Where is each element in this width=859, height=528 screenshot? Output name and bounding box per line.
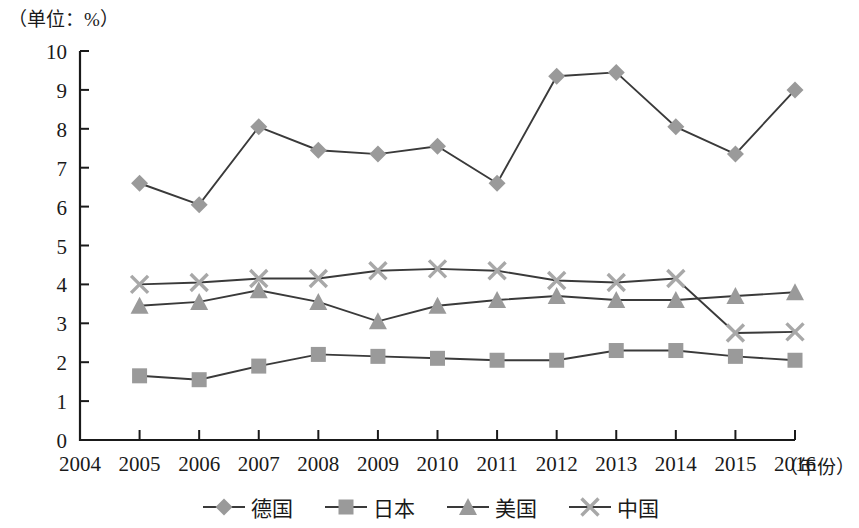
- legend-label: 德国: [249, 492, 293, 522]
- chart-legend: 德国日本美国中国: [0, 492, 859, 522]
- legend-item-4[interactable]: 中国: [567, 492, 659, 522]
- legend-item-2[interactable]: 日本: [323, 492, 415, 522]
- y-axis-tick-label: 4: [57, 273, 68, 297]
- legend-label: 中国: [615, 492, 659, 522]
- legend-label: 日本: [371, 492, 415, 522]
- x-axis-tick-label: 2009: [357, 452, 399, 476]
- x-axis-tick-label: 2008: [297, 452, 339, 476]
- series-line: [140, 269, 795, 333]
- y-axis-tick-label: 10: [46, 40, 67, 64]
- x-axis-tick-label: 2005: [119, 452, 161, 476]
- series-line: [140, 290, 795, 321]
- data-point-marker: [430, 351, 445, 366]
- series-line: [140, 351, 795, 380]
- x-axis-tick-label: 2012: [536, 452, 578, 476]
- data-point-marker: [251, 359, 266, 374]
- y-axis-tick-label: 2: [57, 351, 68, 375]
- x-axis-tick-label: 2014: [655, 452, 698, 476]
- diamond-marker: [201, 497, 247, 517]
- data-point-marker: [192, 372, 207, 387]
- chart-figure: （单位：%） 012345678910200420052006200720082…: [0, 0, 859, 528]
- chart-series-2-markers: [132, 343, 802, 387]
- x-axis-tick-label: 2013: [595, 452, 637, 476]
- chart-series-4: [140, 269, 795, 333]
- data-point-marker: [310, 142, 327, 159]
- legend-label: 美国: [493, 492, 537, 522]
- y-axis-tick-label: 6: [57, 196, 68, 220]
- chart-series-4-markers: [131, 260, 803, 341]
- data-point-marker: [311, 347, 326, 362]
- plot-area: 0123456789102004200520062007200820092010…: [0, 0, 859, 528]
- legend-item-3[interactable]: 美国: [445, 492, 537, 522]
- chart-series-3-markers: [131, 281, 804, 329]
- data-point-marker: [549, 353, 564, 368]
- square-marker: [323, 497, 369, 517]
- series-line: [140, 72, 795, 204]
- data-point-marker: [370, 349, 385, 364]
- data-point-marker: [489, 175, 506, 192]
- legend-item-1[interactable]: 德国: [201, 492, 293, 522]
- chart-series-3: [140, 290, 795, 321]
- y-axis-tick-label: 9: [57, 79, 68, 103]
- data-point-marker: [132, 368, 147, 383]
- chart-axes: [80, 51, 795, 440]
- data-point-marker: [369, 312, 387, 329]
- data-point-marker: [369, 146, 386, 163]
- data-point-marker: [191, 196, 208, 213]
- x-axis-title: （年份）: [779, 452, 855, 479]
- data-point-marker: [250, 118, 267, 135]
- data-point-marker: [788, 353, 803, 368]
- x-axis-tick-label: 2015: [714, 452, 756, 476]
- x-axis-tick-label: 2007: [238, 452, 280, 476]
- x-axis-tick-label: 2006: [178, 452, 220, 476]
- y-axis-tick-label: 0: [57, 429, 68, 453]
- x-axis-tick-label: 2004: [59, 452, 102, 476]
- x-marker: [567, 497, 613, 517]
- y-axis-tick-label: 5: [57, 235, 68, 259]
- line-chart: 0123456789102004200520062007200820092010…: [0, 0, 859, 528]
- data-point-marker: [609, 343, 624, 358]
- data-point-marker: [429, 138, 446, 155]
- data-point-marker: [131, 175, 148, 192]
- y-axis-tick-label: 7: [57, 157, 68, 181]
- x-axis-tick-label: 2011: [476, 452, 517, 476]
- triangle-marker: [445, 497, 491, 517]
- data-point-marker: [548, 68, 565, 85]
- data-point-marker: [490, 353, 505, 368]
- chart-series-1: [140, 72, 795, 204]
- x-axis-tick-label: 2010: [417, 452, 459, 476]
- y-axis-tick-label: 1: [57, 390, 68, 414]
- data-point-marker: [728, 349, 743, 364]
- data-point-marker: [668, 343, 683, 358]
- y-axis-tick-label: 8: [57, 118, 68, 142]
- y-axis-tick-label: 3: [57, 312, 68, 336]
- chart-series-2: [140, 351, 795, 380]
